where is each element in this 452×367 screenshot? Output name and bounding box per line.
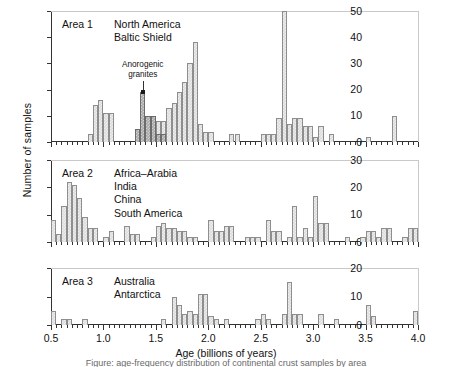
x-tick-minor — [271, 242, 272, 245]
x-tick-label: 3.0 — [293, 332, 333, 344]
x-tick-minor — [408, 242, 409, 245]
x-tick-major — [156, 325, 157, 330]
x-tick-minor — [329, 325, 330, 328]
x-tick-minor — [67, 242, 68, 245]
x-tick-minor — [229, 242, 230, 245]
x-tick-minor — [255, 142, 256, 145]
x-tick-major — [156, 142, 157, 147]
x-tick-minor — [82, 325, 83, 328]
x-tick-minor — [98, 325, 99, 328]
x-tick-minor — [266, 142, 267, 145]
x-tick-minor — [203, 242, 204, 245]
x-tick-minor — [266, 325, 267, 328]
x-tick-minor — [145, 325, 146, 328]
x-tick-major — [261, 325, 262, 330]
x-tick-minor — [282, 142, 283, 145]
x-tick-minor — [287, 325, 288, 328]
x-tick-major — [103, 242, 104, 247]
x-tick-minor — [172, 142, 173, 145]
panel-area-label: Area 2 — [62, 167, 93, 180]
x-tick-minor — [172, 325, 173, 328]
histogram-bar — [67, 319, 72, 325]
x-tick-minor — [235, 242, 236, 245]
histogram-bar — [282, 11, 287, 142]
x-tick-minor — [413, 325, 414, 328]
x-tick-minor — [182, 242, 183, 245]
x-tick-minor — [371, 325, 372, 328]
x-tick-minor — [161, 142, 162, 145]
x-tick-minor — [245, 325, 246, 328]
x-tick-minor — [381, 142, 382, 145]
x-tick-minor — [67, 325, 68, 328]
x-tick-minor — [88, 242, 89, 245]
x-tick-label: 0.5 — [31, 332, 71, 344]
x-tick-minor — [308, 242, 309, 245]
x-tick-minor — [402, 242, 403, 245]
x-tick-major — [366, 325, 367, 330]
x-tick-minor — [229, 325, 230, 328]
histogram-bar — [224, 319, 229, 325]
histogram-bar — [318, 126, 323, 142]
x-tick-major — [156, 242, 157, 247]
anorogenic-granites-annotation: Anorogenicgranites — [103, 60, 183, 79]
x-tick-minor — [224, 325, 225, 328]
x-tick-minor — [408, 325, 409, 328]
x-tick-minor — [287, 242, 288, 245]
x-tick-minor — [376, 242, 377, 245]
histogram-bar — [266, 319, 271, 325]
x-tick-minor — [282, 242, 283, 245]
x-tick-minor — [61, 325, 62, 328]
x-tick-major — [418, 142, 419, 147]
x-tick-minor — [82, 242, 83, 245]
x-tick-minor — [381, 242, 382, 245]
x-tick-minor — [109, 142, 110, 145]
x-tick-major — [51, 142, 52, 147]
x-tick-minor — [235, 325, 236, 328]
x-tick-minor — [303, 325, 304, 328]
histogram-bar — [109, 231, 114, 242]
x-tick-minor — [360, 325, 361, 328]
x-tick-minor — [224, 142, 225, 145]
x-tick-minor — [339, 142, 340, 145]
x-tick-major — [366, 142, 367, 147]
panel-regions-label: Africa–ArabiaIndiaChinaSouth America — [114, 167, 182, 220]
x-tick-minor — [240, 242, 241, 245]
histogram-bar — [161, 319, 166, 325]
x-tick-minor — [130, 325, 131, 328]
panel-region-line: North America — [114, 18, 181, 31]
x-tick-minor — [61, 242, 62, 245]
x-tick-minor — [140, 242, 141, 245]
x-tick-minor — [124, 325, 125, 328]
x-tick-minor — [151, 325, 152, 328]
x-tick-minor — [324, 142, 325, 145]
x-tick-minor — [318, 142, 319, 145]
x-tick-major — [418, 242, 419, 247]
histogram-bar — [318, 314, 323, 325]
x-tick-minor — [135, 142, 136, 145]
x-tick-minor — [339, 242, 340, 245]
histogram-bar — [229, 226, 234, 242]
x-tick-minor — [135, 242, 136, 245]
x-tick-minor — [229, 142, 230, 145]
x-tick-minor — [308, 142, 309, 145]
x-tick-minor — [255, 325, 256, 328]
x-tick-minor — [114, 142, 115, 145]
x-tick-major — [313, 242, 314, 247]
x-tick-minor — [245, 142, 246, 145]
x-tick-minor — [124, 242, 125, 245]
x-tick-minor — [145, 142, 146, 145]
x-tick-minor — [177, 142, 178, 145]
x-tick-minor — [381, 325, 382, 328]
x-tick-minor — [387, 242, 388, 245]
x-tick-minor — [318, 242, 319, 245]
panel-regions-label: North AmericaBaltic Shield — [114, 18, 181, 44]
x-tick-minor — [360, 142, 361, 145]
y-axis-title: Number of samples — [21, 65, 33, 235]
x-tick-minor — [172, 242, 173, 245]
x-tick-minor — [255, 242, 256, 245]
x-tick-minor — [151, 242, 152, 245]
x-tick-minor — [56, 142, 57, 145]
histogram-bar — [297, 314, 302, 325]
x-tick-minor — [350, 325, 351, 328]
histogram-bar — [387, 228, 392, 242]
